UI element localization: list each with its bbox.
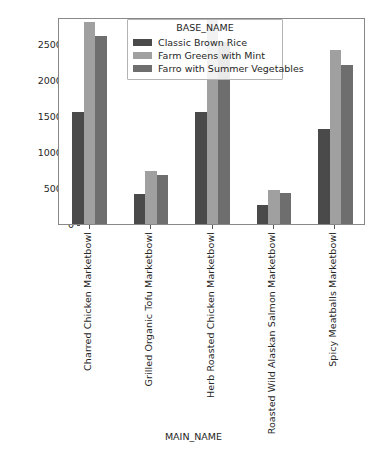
bar bbox=[145, 171, 157, 224]
x-tick-label: Charred Chicken Marketbowl bbox=[83, 232, 93, 371]
x-tick-mark bbox=[334, 225, 335, 229]
legend-color-swatch bbox=[133, 65, 152, 72]
legend-item-label: Classic Brown Rice bbox=[158, 38, 247, 48]
bar bbox=[280, 193, 292, 224]
bar bbox=[72, 112, 84, 224]
bar bbox=[134, 194, 146, 224]
bar bbox=[95, 36, 107, 224]
x-tick-label: Spicy Meatballs Marketbowl bbox=[328, 232, 338, 367]
bar bbox=[268, 190, 280, 224]
legend-color-swatch bbox=[133, 52, 152, 59]
bar-group bbox=[72, 19, 107, 224]
bar-group bbox=[318, 19, 353, 224]
legend-item: Farro with Summer Vegetables bbox=[133, 62, 277, 75]
legend-title: BASE_NAME bbox=[133, 23, 277, 34]
legend-item-label: Farm Greens with Mint bbox=[158, 51, 265, 61]
legend: BASE_NAME Classic Brown RiceFarm Greens … bbox=[127, 19, 283, 80]
bar-chart-figure: 050000100000150000200000250000 Charred C… bbox=[0, 0, 387, 459]
legend-color-swatch bbox=[133, 39, 152, 46]
bar bbox=[257, 205, 269, 224]
x-tick-label: Herb Roasted Chicken Marketbowl bbox=[206, 232, 216, 398]
x-axis-title: MAIN_NAME bbox=[0, 431, 387, 442]
legend-item-label: Farro with Summer Vegetables bbox=[158, 64, 304, 74]
bar bbox=[84, 22, 96, 224]
x-tick-mark bbox=[273, 225, 274, 229]
bar bbox=[330, 50, 342, 224]
y-tick-mark bbox=[77, 225, 81, 226]
legend-item: Farm Greens with Mint bbox=[133, 49, 277, 62]
x-tick-label: Roasted Wild Alaskan Salmon Marketbowl bbox=[267, 232, 277, 434]
bar bbox=[318, 129, 330, 224]
bar bbox=[341, 65, 353, 224]
bar bbox=[157, 175, 169, 224]
legend-rows: Classic Brown RiceFarm Greens with MintF… bbox=[133, 36, 277, 75]
legend-item: Classic Brown Rice bbox=[133, 36, 277, 49]
x-tick-mark bbox=[150, 225, 151, 229]
x-tick-mark bbox=[212, 225, 213, 229]
x-tick-mark bbox=[89, 225, 90, 229]
x-tick-label: Grilled Organic Tofu Marketbowl bbox=[144, 232, 154, 386]
bar bbox=[195, 112, 207, 224]
